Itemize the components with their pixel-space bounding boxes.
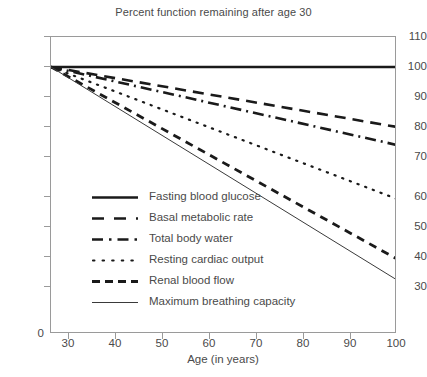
- x-tick-label-90: 90: [330, 337, 370, 349]
- legend-item-renal-blood-flow: Renal blood flow: [91, 271, 361, 292]
- x-tick-label-40: 40: [95, 337, 135, 349]
- plot-area: Fasting blood glucose Basal metabolic ra…: [50, 36, 396, 333]
- legend-swatch-long-dash: [91, 208, 139, 229]
- legend-swatch-solid-thick: [91, 187, 139, 208]
- legend-swatch-solid-thin: [91, 292, 139, 313]
- x-tick-label-30: 30: [48, 337, 88, 349]
- chart-figure: Percent function remaining after age 30 …: [0, 0, 427, 377]
- x-tick-label-60: 60: [189, 337, 229, 349]
- legend-label-fasting-blood-glucose: Fasting blood glucose: [149, 190, 261, 202]
- x-tick-label-70: 70: [236, 337, 276, 349]
- legend-label-renal-blood-flow: Renal blood flow: [149, 274, 234, 286]
- x-tick-label-100: 100: [376, 337, 416, 349]
- legend-label-basal-metabolic-rate: Basal metabolic rate: [149, 211, 253, 223]
- legend-swatch-dotted: [91, 250, 139, 271]
- legend-item-fasting-blood-glucose: Fasting blood glucose: [91, 187, 361, 208]
- legend-item-resting-cardiac-output: Resting cardiac output: [91, 250, 361, 271]
- x-tick-label-50: 50: [142, 337, 182, 349]
- legend-label-resting-cardiac-output: Resting cardiac output: [149, 253, 263, 265]
- y-axis-zero-label: 0: [0, 327, 44, 339]
- series-line-total-body-water: [51, 67, 396, 145]
- legend-swatch-dash-dot: [91, 229, 139, 250]
- legend-item-basal-metabolic-rate: Basal metabolic rate: [91, 208, 361, 229]
- x-axis-title: Age (in years): [50, 353, 396, 365]
- legend-swatch-medium-dash: [91, 271, 139, 292]
- legend-label-total-body-water: Total body water: [149, 232, 233, 244]
- legend-item-maximum-breathing-capacity: Maximum breathing capacity: [91, 292, 361, 313]
- chart-legend: Fasting blood glucose Basal metabolic ra…: [91, 187, 361, 313]
- chart-title: Percent function remaining after age 30: [0, 6, 427, 18]
- legend-label-maximum-breathing-capacity: Maximum breathing capacity: [149, 295, 295, 307]
- legend-item-total-body-water: Total body water: [91, 229, 361, 250]
- x-tick-label-80: 80: [283, 337, 323, 349]
